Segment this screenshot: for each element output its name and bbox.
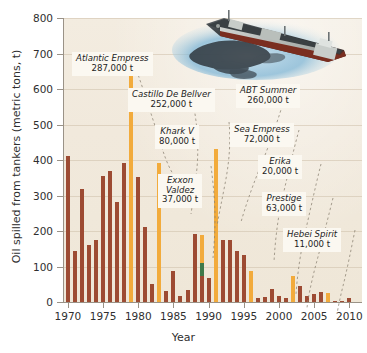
- callout-amount: 20,000 t: [262, 167, 298, 177]
- bar-2002: [291, 276, 295, 302]
- y-axis-title: Oil spilled from tankers (metric tons, t…: [10, 37, 23, 277]
- bar-2003: [298, 286, 302, 302]
- bar-1992: [221, 240, 225, 302]
- bar-1988: [193, 234, 197, 302]
- x-axis-tick: [103, 302, 104, 308]
- callout-prestige: Prestige 63,000 t: [262, 192, 306, 216]
- y-axis-tick: [57, 231, 63, 232]
- x-axis-tick-label: 1985: [153, 311, 193, 322]
- callout-exxon-valdez: Exxon Valdez 37,000 t: [158, 174, 202, 208]
- y-axis-line: [63, 18, 64, 303]
- y-axis-tick: [57, 302, 63, 303]
- bar-1999: [270, 289, 274, 302]
- x-axis-tick: [349, 302, 350, 308]
- bar-1996: [249, 271, 253, 302]
- y-axis-tick-label: 500: [33, 120, 53, 131]
- bar-1987: [186, 290, 190, 302]
- callout-amount: 80,000 t: [159, 137, 195, 147]
- bar-2007: [326, 293, 330, 302]
- bar-2005: [312, 294, 316, 302]
- bar-1985: [171, 271, 175, 302]
- x-axis-tick: [244, 302, 245, 308]
- callout-castillo-de-bellver: Castillo De Bellver 252,000 t: [128, 88, 215, 112]
- y-axis-tick-label: 800: [33, 13, 53, 24]
- callout-erika: Erika 20,000 t: [258, 155, 302, 179]
- bar-segment-khark-v: [200, 235, 204, 263]
- bar-1971: [73, 251, 77, 302]
- y-axis-tick-label: 300: [33, 191, 53, 202]
- bar-1981: [143, 227, 147, 302]
- y-axis-tick: [57, 54, 63, 55]
- bar-1994: [235, 251, 239, 302]
- x-axis-tick: [138, 302, 139, 308]
- callout-sea-empress: Sea Empress 72,000 t: [230, 123, 294, 147]
- x-axis-tick: [279, 302, 280, 308]
- x-axis-tick-label: 2000: [259, 311, 299, 322]
- x-axis-tick: [209, 302, 210, 308]
- oil-spill-chart-figure: 0100200300400500600700800 19701975198019…: [0, 0, 367, 353]
- callout-hebei-spirit: Hebei Spirit 11,000 t: [283, 228, 341, 252]
- bar-1980: [136, 177, 140, 302]
- callout-amount: 72,000 t: [234, 135, 290, 145]
- bar-1977: [115, 202, 119, 302]
- bar-segment-exxon-valdez: [200, 263, 204, 276]
- callout-amount: 260,000 t: [240, 96, 296, 106]
- callout-amount: 63,000 t: [266, 204, 302, 214]
- x-axis-tick-label: 1970: [48, 311, 88, 322]
- y-axis-tick-label: 200: [33, 226, 53, 237]
- callout-abt-summer: ABT Summer 260,000 t: [236, 84, 300, 108]
- x-axis-tick-label: 2010: [329, 311, 367, 322]
- y-axis-tick-label: 0: [46, 297, 53, 308]
- callout-amount: 287,000 t: [76, 64, 149, 74]
- bar-1975: [101, 176, 105, 302]
- x-axis-tick: [173, 302, 174, 308]
- bar-1984: [164, 291, 168, 302]
- x-axis-tick: [314, 302, 315, 308]
- y-axis-tick: [57, 89, 63, 90]
- y-axis-tick-label: 600: [33, 84, 53, 95]
- y-axis-tick-label: 400: [33, 155, 53, 166]
- y-axis-tick: [57, 160, 63, 161]
- x-axis-tick-label: 1975: [83, 311, 123, 322]
- bar-1995: [242, 255, 246, 302]
- bar-1982: [150, 284, 154, 302]
- bar-1991: [214, 149, 218, 302]
- y-axis-tick: [57, 18, 63, 19]
- bar-1993: [228, 240, 232, 302]
- callout-khark-v: Khark V 80,000 t: [155, 125, 199, 149]
- bar-1970: [66, 156, 70, 302]
- bar-2006: [319, 292, 323, 302]
- y-axis-tick: [57, 125, 63, 126]
- callout-amount: 252,000 t: [132, 100, 211, 110]
- y-axis-tick: [57, 267, 63, 268]
- x-axis-tick-label: 1980: [118, 311, 158, 322]
- callout-amount: 37,000 t: [162, 195, 198, 205]
- bar-1976: [108, 171, 112, 302]
- x-axis-line: [63, 302, 362, 303]
- bar-1973: [87, 245, 91, 302]
- y-axis-tick: [57, 196, 63, 197]
- x-axis-tick-label: 1990: [189, 311, 229, 322]
- x-axis-tick-label: 1995: [224, 311, 264, 322]
- bar-1972: [80, 189, 84, 302]
- bar-1990: [207, 278, 211, 302]
- x-axis-title: Year: [0, 331, 367, 344]
- callout-atlantic-empress: Atlantic Empress 287,000 t: [72, 52, 153, 76]
- bar-1989: [200, 235, 204, 302]
- callout-amount: 11,000 t: [287, 240, 337, 250]
- y-axis-tick-label: 700: [33, 49, 53, 60]
- bar-1974: [94, 240, 98, 302]
- x-axis-tick: [68, 302, 69, 308]
- bar-1978: [122, 163, 126, 303]
- y-axis-tick-label: 100: [33, 262, 53, 273]
- x-axis-tick-label: 2005: [294, 311, 334, 322]
